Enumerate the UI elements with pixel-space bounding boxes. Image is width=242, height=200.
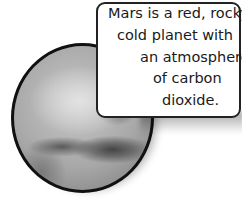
callout-line-4: of carbon — [153, 70, 222, 86]
callout-line-5: dioxide. — [162, 92, 219, 108]
callout-line-1: Mars is a red, rocky, — [108, 5, 242, 21]
callout-text: Mars is a red, rocky, cold planet with a… — [0, 0, 242, 120]
callout-line-2: cold planet with — [117, 27, 233, 43]
callout-line-3: an atmosphere — [140, 49, 242, 65]
